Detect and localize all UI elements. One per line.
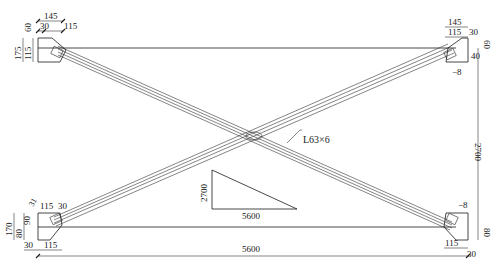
slope-run-label: 5600 bbox=[242, 211, 261, 221]
bl-side-total: 170 bbox=[4, 222, 14, 236]
slope-triangle: 2700 5600 bbox=[199, 170, 297, 221]
gusset-plate-bottom-right bbox=[444, 213, 468, 240]
bl-top-b: 30 bbox=[58, 201, 68, 211]
overall-height-label: 2700 bbox=[473, 143, 483, 162]
frame-lines bbox=[38, 48, 456, 227]
bottom-left-dimensions: 31 115 30 170 90 80 30 115 bbox=[4, 197, 68, 250]
br-side-a: 80 bbox=[482, 228, 492, 238]
tr-side-a: 60 bbox=[482, 40, 492, 50]
slope-rise-label: 2700 bbox=[199, 184, 209, 203]
member-label: L63×6 bbox=[303, 134, 330, 145]
tr-side-b: 40 bbox=[471, 51, 481, 61]
member-callout: L63×6 bbox=[287, 130, 330, 145]
tl-side-total: 175 bbox=[13, 46, 23, 60]
diagonal-brace-1 bbox=[58, 46, 452, 230]
gusset-plate-top-right bbox=[444, 38, 468, 62]
br-bottom-b: 30 bbox=[467, 249, 477, 259]
br-weld: −8 bbox=[458, 200, 468, 210]
tr-top-total: 145 bbox=[448, 17, 462, 27]
bl-side-a: 90 bbox=[22, 216, 32, 226]
tl-side-a: 60 bbox=[23, 23, 33, 33]
bl-top-a: 115 bbox=[40, 201, 54, 211]
overall-height-dimension: 2700 bbox=[473, 48, 483, 240]
tl-top-a: 30 bbox=[40, 21, 50, 31]
tl-top-b: 115 bbox=[64, 21, 78, 31]
overall-width-label: 5600 bbox=[242, 244, 261, 254]
brace-drawing: L63×6 2700 5600 5600 2700 145 30 115 175… bbox=[0, 0, 501, 273]
tr-top-b: 30 bbox=[469, 27, 479, 37]
bl-bottom-a: 30 bbox=[24, 240, 34, 250]
overall-width-dimension: 5600 bbox=[36, 244, 470, 258]
bl-side-c: 31 bbox=[27, 197, 39, 208]
tl-top-total: 145 bbox=[44, 11, 58, 21]
tr-top-a: 115 bbox=[448, 27, 462, 37]
top-right-dimensions: 145 115 30 60 40 −8 bbox=[445, 17, 492, 77]
bl-bottom-b: 115 bbox=[44, 240, 58, 250]
gusset-plate-bottom-left bbox=[38, 213, 62, 240]
top-left-dimensions: 145 30 115 175 60 115 bbox=[13, 11, 78, 62]
bl-side-b: 80 bbox=[14, 229, 24, 239]
tl-side-b: 115 bbox=[23, 46, 33, 60]
tr-weld: −8 bbox=[452, 67, 462, 77]
br-bottom-a: 115 bbox=[445, 238, 459, 248]
gusset-plate-top-left bbox=[38, 38, 66, 62]
